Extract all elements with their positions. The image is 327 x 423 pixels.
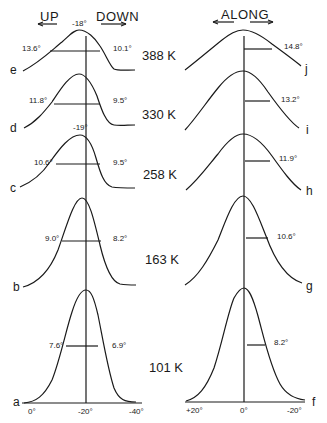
h-hw: 11.9° — [279, 155, 297, 163]
c-right-hw: 9.5° — [113, 159, 127, 167]
d-left-hw: 11.8° — [29, 97, 47, 105]
panel-d: d — [10, 122, 17, 134]
a-left-hw: 7.6° — [49, 342, 63, 350]
temp-258: 258 K — [143, 168, 177, 181]
panel-a: a — [13, 396, 20, 408]
temp-101: 101 K — [149, 361, 183, 374]
panel-f: f — [312, 396, 315, 408]
panel-i: i — [306, 124, 309, 136]
a-right-hw: 6.9° — [112, 342, 126, 350]
temp-163: 163 K — [145, 253, 179, 266]
panel-h: h — [306, 185, 313, 197]
f-hw: 8.2° — [274, 339, 288, 347]
up-label: UP — [40, 10, 59, 23]
i-hw: 13.2° — [281, 96, 300, 104]
j-hw: 14.8° — [284, 43, 303, 51]
down-label: DOWN — [96, 10, 139, 23]
peak-label-e: -18° — [72, 20, 87, 28]
panel-b: b — [13, 281, 20, 293]
right-tick-p20: +20° — [186, 407, 203, 415]
b-right-hw: 8.2° — [113, 235, 127, 243]
d-right-hw: 9.5° — [113, 97, 127, 105]
along-label: ALONG — [221, 8, 269, 21]
b-left-hw: 9.0° — [45, 235, 59, 243]
peak-label-c: -19° — [73, 124, 88, 132]
c-left-hw: 10.6° — [34, 159, 53, 167]
left-tick-0: 0° — [28, 408, 36, 416]
panel-g: g — [306, 280, 313, 292]
temp-330: 330 K — [142, 108, 176, 121]
g-hw: 10.6° — [277, 233, 296, 241]
left-tick-20: -20° — [78, 408, 93, 416]
e-left-hw: 13.6° — [22, 45, 41, 53]
right-tick-0: 0° — [240, 407, 248, 415]
panel-e: e — [10, 64, 17, 76]
right-tick-m20: -20° — [287, 407, 302, 415]
panel-j: j — [305, 63, 308, 75]
temp-388: 388 K — [142, 49, 176, 62]
panel-c: c — [10, 182, 16, 194]
e-right-hw: 10.1° — [113, 45, 132, 53]
left-tick-40: -40° — [129, 408, 144, 416]
